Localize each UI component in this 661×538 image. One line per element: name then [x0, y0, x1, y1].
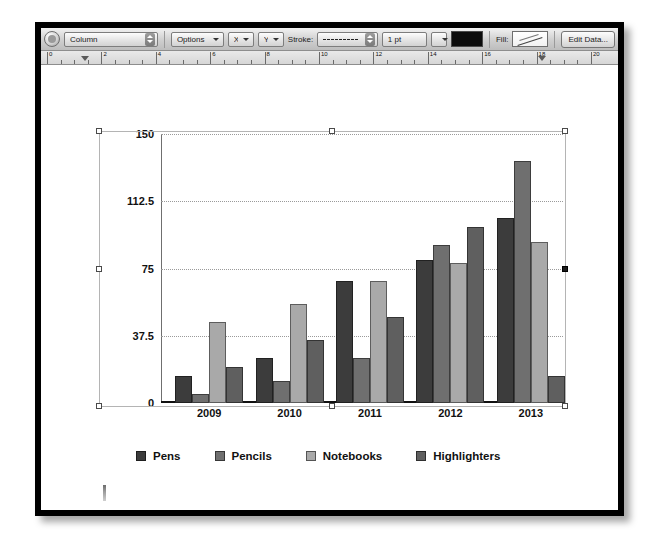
legend-label: Highlighters	[433, 450, 500, 462]
chart-bar[interactable]	[548, 376, 565, 403]
legend-item[interactable]: Pens	[136, 450, 181, 462]
selection-handle-bottom-center[interactable]	[329, 403, 335, 409]
chevron-down-icon	[441, 33, 450, 46]
application-window: Column Options X Y Stroke:	[41, 28, 618, 510]
y-axis-tick-label: 0	[148, 397, 154, 409]
ruler-tick-minor	[74, 60, 75, 64]
shape-mode-button[interactable]	[44, 31, 60, 47]
ruler-tick-label: 16	[484, 51, 491, 58]
ruler-tick-minor	[550, 60, 551, 64]
fill-swatch[interactable]	[512, 31, 548, 47]
y-axis-tick-label: 37.5	[133, 330, 154, 342]
legend-item[interactable]: Pencils	[215, 450, 272, 462]
chart-bar[interactable]	[175, 376, 192, 403]
chart-bar[interactable]	[433, 245, 450, 403]
legend-item[interactable]: Highlighters	[416, 450, 500, 462]
chart-bar[interactable]	[450, 263, 467, 403]
x-axis-tick-label: 2011	[358, 407, 382, 419]
ruler-tick-minor	[401, 60, 402, 64]
chart-type-dropdown[interactable]: Column	[64, 32, 158, 47]
ruler-guide-marker[interactable]	[81, 53, 90, 62]
chart-plot-area: 037.575112.515020092010201120122013	[161, 134, 563, 403]
selection-handle-top-center[interactable]	[329, 128, 335, 134]
y-axis-dropdown[interactable]: Y	[258, 32, 284, 47]
ruler-tick-minor	[129, 60, 130, 64]
chart-bar[interactable]	[307, 340, 324, 403]
chart-bar[interactable]	[531, 242, 548, 403]
chart-bar[interactable]	[209, 322, 226, 403]
ruler-tick-major	[156, 52, 157, 64]
selection-handle-bottom-left[interactable]	[96, 403, 102, 409]
x-axis-tick-label: 2013	[519, 407, 543, 419]
ruler-tick-minor	[197, 60, 198, 64]
chart-bar[interactable]	[290, 304, 307, 403]
chart-bar[interactable]	[467, 227, 484, 403]
stroke-style-dropdown[interactable]	[317, 32, 378, 47]
stroke-weight-value: 1 pt	[388, 35, 424, 44]
chart-bar[interactable]	[416, 260, 433, 403]
ruler-tick-minor	[414, 60, 415, 64]
ruler-tick-label: 10	[321, 51, 328, 58]
ruler-tick-minor	[305, 60, 306, 64]
chart-bar[interactable]	[226, 367, 243, 403]
chart-type-value: Column	[70, 35, 141, 44]
chart-bar[interactable]	[256, 358, 273, 403]
y-axis-tick-label: 150	[136, 128, 154, 140]
ruler-tick-label: 0	[49, 51, 52, 58]
ruler-tick-minor	[441, 60, 442, 64]
ruler-tick-minor	[469, 60, 470, 64]
x-axis-tick-label: 2012	[438, 407, 462, 419]
selection-handle-middle-right[interactable]	[562, 266, 568, 272]
fill-label: Fill:	[496, 35, 508, 44]
artboard-canvas[interactable]: 037.575112.515020092010201120122013 Pens…	[41, 65, 618, 510]
ruler-tick-minor	[115, 60, 116, 64]
ruler-tick-major	[428, 52, 429, 64]
chart-bar[interactable]	[387, 317, 404, 403]
horizontal-ruler[interactable]: 02468101214161820	[41, 51, 618, 65]
ruler-tick-major	[47, 52, 48, 64]
stroke-weight-field[interactable]: 1 pt	[382, 32, 427, 47]
edit-data-button[interactable]: Edit Data...	[561, 31, 615, 48]
chart-bar[interactable]	[336, 281, 353, 403]
options-label: Options	[177, 35, 208, 44]
stroke-color-swatch[interactable]	[451, 31, 483, 47]
chart-bar[interactable]	[514, 161, 531, 403]
chart-bar-group[interactable]	[336, 134, 404, 403]
ruler-tick-minor	[278, 60, 279, 64]
ruler-tick-major	[591, 52, 592, 64]
chart-bar[interactable]	[370, 281, 387, 403]
chart-bar-group[interactable]	[497, 134, 565, 403]
ruler-tick-minor	[251, 60, 252, 64]
ruler-tick-major	[373, 52, 374, 64]
ruler-tick-major	[101, 52, 102, 64]
chart-bar[interactable]	[273, 381, 290, 403]
selection-handle-middle-left[interactable]	[96, 266, 102, 272]
legend-swatch	[215, 451, 225, 461]
chart-bar-group[interactable]	[256, 134, 324, 403]
selection-handle-top-left[interactable]	[96, 128, 102, 134]
selection-handle-bottom-right[interactable]	[562, 403, 568, 409]
ruler-tick-minor	[387, 60, 388, 64]
chart-bar-group[interactable]	[416, 134, 484, 403]
ruler-tick-minor	[61, 60, 62, 64]
ruler-guide-marker[interactable]	[538, 53, 547, 62]
chart-bar[interactable]	[497, 218, 514, 403]
ruler-tick-minor	[564, 60, 565, 64]
chart-object-selection[interactable]: 037.575112.515020092010201120122013	[99, 131, 565, 406]
chart-bar[interactable]	[353, 358, 370, 403]
options-dropdown[interactable]: Options	[171, 32, 224, 47]
legend-label: Pens	[153, 450, 181, 462]
x-axis-label: X	[234, 35, 238, 44]
ruler-tick-label: 4	[158, 51, 161, 58]
chart-bar[interactable]	[192, 394, 209, 403]
ruler-tick-minor	[509, 60, 510, 64]
ruler-tick-major	[319, 52, 320, 64]
stroke-weight-dropdown[interactable]	[431, 32, 447, 47]
ruler-tick-minor	[523, 60, 524, 64]
x-axis-tick-label: 2010	[277, 407, 301, 419]
chart-bar-group[interactable]	[175, 134, 243, 403]
selection-handle-top-right[interactable]	[562, 128, 568, 134]
legend-item[interactable]: Notebooks	[306, 450, 382, 462]
toolbar-divider	[164, 31, 165, 48]
x-axis-dropdown[interactable]: X	[228, 32, 254, 47]
